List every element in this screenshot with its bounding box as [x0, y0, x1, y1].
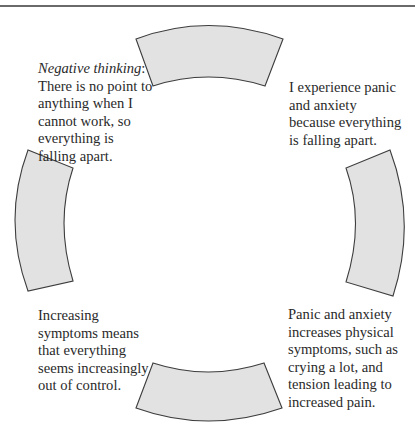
- node-text-line: I experience panic: [289, 79, 401, 97]
- node-text-line: Panic and anxiety: [288, 306, 398, 324]
- node-text-line: that everything: [38, 342, 149, 360]
- cycle-segment-left: [15, 150, 73, 291]
- node-text-line: crying a lot, and: [288, 359, 398, 377]
- node-text-line: increased pain.: [288, 394, 398, 412]
- node-text-line: symptoms means: [38, 325, 149, 343]
- node-text-line: cannot work, so: [38, 113, 152, 131]
- node-panic-anxiety: I experience panic and anxiety because e…: [289, 79, 401, 149]
- cycle-segment-right: [346, 150, 404, 296]
- node-text-line: There is no point to: [38, 78, 152, 96]
- node-text-line: seems increasingly: [38, 360, 149, 378]
- node-text-line: falling apart.: [38, 148, 152, 166]
- node-heading-line: Negative thinking:: [38, 60, 152, 78]
- node-text-line: Increasing: [38, 307, 149, 325]
- cycle-segment-top: [136, 26, 283, 87]
- node-heading-suffix: :: [141, 60, 145, 76]
- node-text-line: everything is: [38, 130, 152, 148]
- node-text-line: because everything: [289, 114, 401, 132]
- node-physical-symptoms: Panic and anxiety increases physical sym…: [288, 306, 398, 412]
- node-text-line: increases physical: [288, 324, 398, 342]
- node-text-line: anything when I: [38, 95, 152, 113]
- node-text-line: out of control.: [38, 377, 149, 395]
- node-loss-of-control: Increasing symptoms means that everythin…: [38, 307, 149, 395]
- node-text-line: tension leading to: [288, 376, 398, 394]
- node-heading-italic: Negative thinking: [38, 60, 141, 76]
- node-text-line: and anxiety: [289, 97, 401, 115]
- node-negative-thinking: Negative thinking: There is no point to …: [38, 60, 152, 166]
- node-text-line: is falling apart.: [289, 132, 401, 150]
- node-text-line: symptoms, such as: [288, 341, 398, 359]
- cycle-segment-bottom: [136, 363, 282, 421]
